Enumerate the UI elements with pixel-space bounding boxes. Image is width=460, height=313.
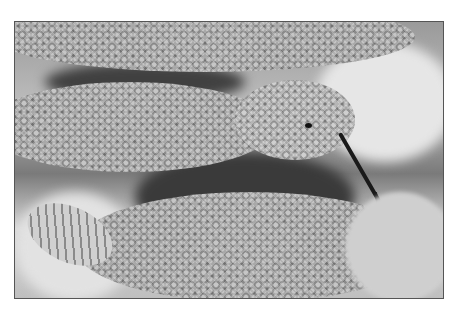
snake-head: [235, 80, 355, 160]
ground-texture: [345, 192, 444, 299]
snake-eye: [305, 123, 312, 128]
photo-frame: [14, 21, 444, 299]
